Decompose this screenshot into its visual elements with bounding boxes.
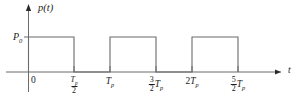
fraction-three-halves: 32 [149, 76, 155, 94]
amplitude-label: P0 [13, 32, 22, 45]
tick-label-five-half-Tp: 52Tp [231, 76, 245, 94]
pulse-train-figure: p(t) t P0 0 Tp2 Tp 32Tp 2Tp 52Tp [0, 0, 298, 108]
fraction-numerator: 3 [149, 76, 155, 84]
tick-label-half-Tp: Tp2 [69, 76, 78, 95]
pulse-train-waveform [29, 37, 239, 72]
x-axis-arrow-icon [275, 69, 281, 74]
fraction-five-halves: 52 [231, 76, 237, 94]
fraction-denominator: 2 [149, 84, 155, 93]
tick-label-two-Tp: 2Tp [185, 77, 198, 88]
fraction-half-Tp: Tp2 [69, 76, 78, 95]
period-subscript: p [75, 79, 78, 85]
amplitude-subscript: 0 [19, 37, 22, 44]
y-axis-arrow-icon [26, 4, 31, 11]
tick-label-origin: 0 [31, 76, 36, 86]
fraction-denominator: 2 [71, 86, 77, 95]
y-axis-label: p(t) [38, 3, 53, 14]
x-axis-label: t [288, 66, 291, 76]
period-subscript: p [195, 81, 198, 88]
fraction-numerator: Tp [69, 76, 78, 86]
tick-label-three-half-Tp: 32Tp [149, 76, 163, 94]
tick-label-Tp: Tp [106, 77, 114, 88]
period-subscript: p [242, 84, 245, 91]
fraction-denominator: 2 [231, 84, 237, 93]
period-subscript: p [160, 84, 163, 91]
period-subscript: p [111, 81, 114, 88]
fraction-numerator: 5 [231, 76, 237, 84]
